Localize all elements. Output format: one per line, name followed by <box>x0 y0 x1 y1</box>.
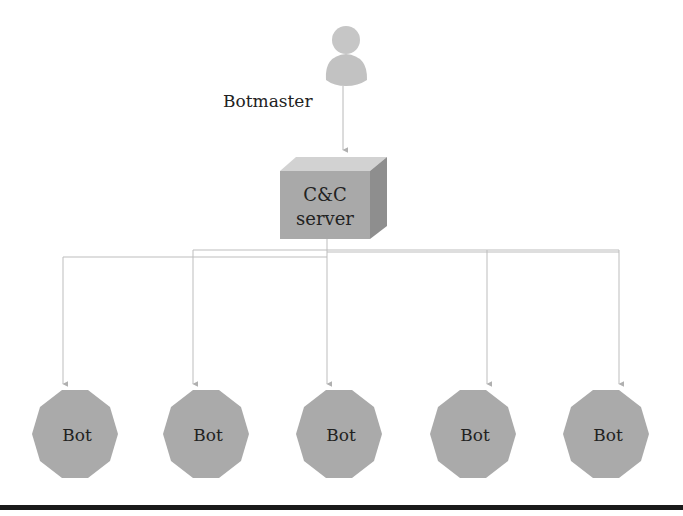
svg-text:Bot: Bot <box>326 425 356 445</box>
person-icon <box>326 26 367 86</box>
server-top-face <box>280 157 387 171</box>
svg-text:Bot: Bot <box>593 425 623 445</box>
server-label-line1: C&C <box>303 184 347 205</box>
bot-node: Bot <box>296 390 382 478</box>
server-side-face <box>370 157 387 239</box>
bot-node: Bot <box>163 390 249 478</box>
svg-text:Bot: Bot <box>460 425 490 445</box>
bot-connectors <box>63 239 619 384</box>
svg-text:Bot: Bot <box>193 425 223 445</box>
cc-server-box: C&C server <box>280 157 387 239</box>
bottom-rule <box>0 505 683 510</box>
bot-node: Bot <box>32 390 118 478</box>
botmaster-label: Botmaster <box>223 91 313 111</box>
bot-node: Bot <box>430 390 516 478</box>
bot-node: Bot <box>563 390 649 478</box>
server-label-line2: server <box>296 208 354 229</box>
svg-text:Bot: Bot <box>62 425 92 445</box>
botnet-diagram: Botmaster C&C server Bot Bot Bot Bot <box>0 0 683 516</box>
